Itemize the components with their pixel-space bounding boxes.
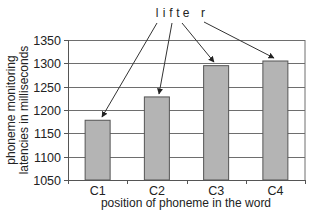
bar-c3 — [204, 66, 229, 180]
y-tick-label: 1350 — [33, 34, 61, 48]
bar-c4 — [263, 61, 288, 180]
bar-c2 — [144, 97, 169, 180]
bar-series — [85, 61, 288, 180]
chart-canvas: 1050110011501200125013001350 C1C2C3C4 li… — [0, 0, 312, 215]
annotation-letter: t — [176, 6, 180, 20]
annotation-letter: r — [201, 6, 205, 20]
annotation-arrow-i-c2 — [159, 23, 172, 94]
y-tick-label: 1050 — [33, 174, 61, 188]
annotation-letter: e — [183, 6, 190, 20]
y-axis-title-line: phoneme monitoring — [4, 55, 18, 164]
annotation-letter: l — [156, 6, 159, 20]
y-tick-label: 1250 — [33, 81, 61, 95]
y-tick-label: 1150 — [34, 127, 61, 141]
y-axis: 1050110011501200125013001350 — [33, 34, 68, 188]
bar-c1 — [85, 120, 110, 180]
y-axis-title-line: latencies in milliseconds — [17, 46, 31, 175]
x-axis-title: position of phoneme in the word — [101, 196, 271, 210]
y-tick-label: 1100 — [34, 151, 61, 165]
word-annotation: lifter — [102, 6, 274, 117]
annotation-letter: i — [163, 6, 166, 20]
y-tick-label: 1200 — [33, 104, 61, 118]
annotation-letter: f — [169, 6, 173, 20]
annotation-arrow-t-c3 — [182, 23, 214, 62]
bar-chart: 1050110011501200125013001350 C1C2C3C4 li… — [0, 0, 312, 215]
y-axis-title: phoneme monitoringlatencies in milliseco… — [4, 46, 31, 175]
y-tick-label: 1300 — [33, 57, 61, 71]
